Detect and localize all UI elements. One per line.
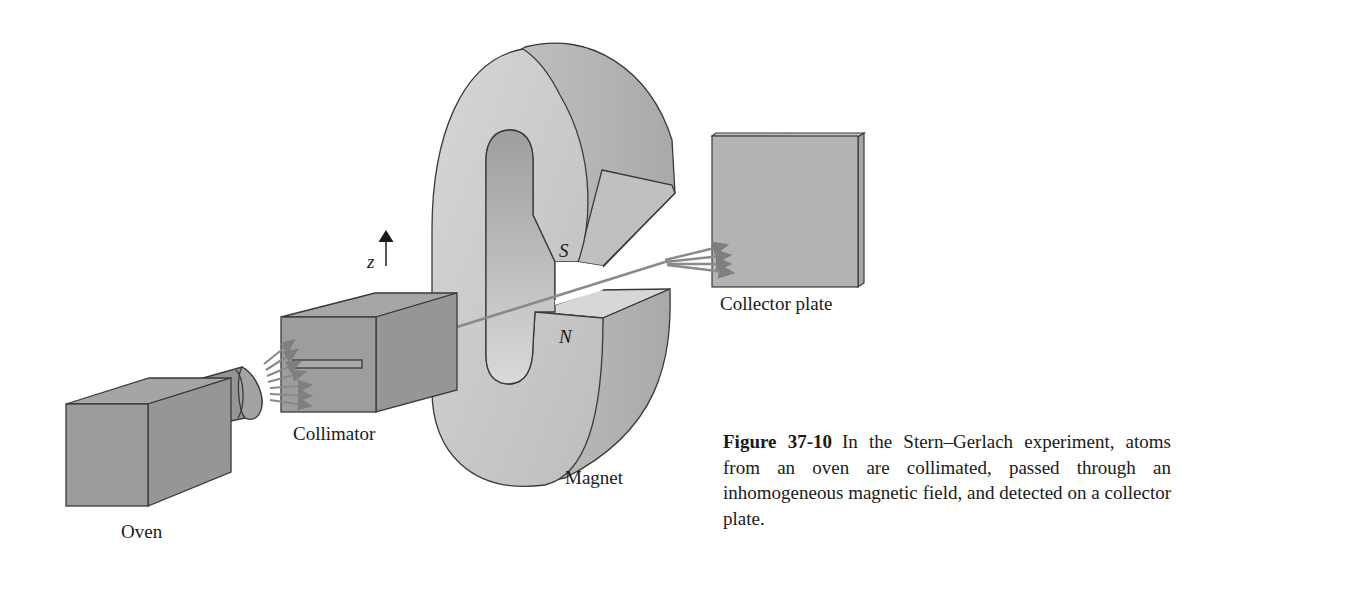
collimator-slit: [293, 360, 362, 368]
magnet: [432, 43, 675, 486]
label-z-axis: z: [367, 252, 374, 271]
figure-caption: Figure 37-10In the Stern–Gerlach experim…: [723, 429, 1171, 531]
oven: [66, 367, 262, 506]
label-south-pole: S: [559, 241, 569, 260]
label-magnet: Magnet: [565, 468, 623, 487]
collimator: [281, 293, 457, 412]
figure-number: Figure 37-10: [723, 431, 832, 452]
collector-plate: [712, 133, 864, 287]
label-oven: Oven: [121, 522, 162, 541]
label-collimator: Collimator: [293, 424, 375, 443]
label-collector-plate: Collector plate: [720, 294, 832, 313]
label-north-pole: N: [559, 327, 572, 346]
